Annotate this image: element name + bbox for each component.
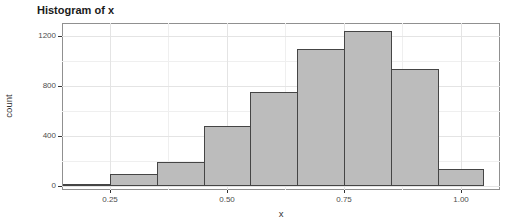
chart-title: Histogram of x xyxy=(37,4,114,16)
x-tick-label: 0.50 xyxy=(212,195,242,205)
x-tick-mark xyxy=(110,190,111,193)
y-tick-label: 0 xyxy=(25,181,56,191)
gridline-x-major xyxy=(110,23,111,190)
y-tick-label: 1200 xyxy=(25,31,56,41)
y-tick-label: 800 xyxy=(25,81,56,91)
x-tick-label: 0.25 xyxy=(95,195,125,205)
x-tick-mark xyxy=(227,190,228,193)
x-tick-mark xyxy=(344,190,345,193)
plot-panel xyxy=(62,23,500,190)
x-tick-label: 0.75 xyxy=(329,195,359,205)
histogram-bar xyxy=(110,174,158,186)
histogram-figure: Histogram of x count x 0.250.500.751.000… xyxy=(0,0,508,224)
histogram-bar xyxy=(250,92,298,186)
x-axis-title: x xyxy=(62,208,500,219)
histogram-bar xyxy=(297,49,345,186)
x-tick-mark xyxy=(461,190,462,193)
histogram-bar xyxy=(63,184,111,186)
y-tick-mark xyxy=(58,186,62,187)
histogram-bar xyxy=(438,169,484,186)
histogram-bar xyxy=(204,126,251,186)
y-tick-label: 400 xyxy=(25,131,56,141)
y-tick-mark xyxy=(58,136,62,137)
histogram-bar xyxy=(391,69,439,186)
x-tick-label: 1.00 xyxy=(446,195,476,205)
gridline-x-major xyxy=(461,23,462,190)
y-tick-mark xyxy=(58,86,62,87)
gridline-y-minor xyxy=(62,61,500,62)
y-tick-mark xyxy=(58,36,62,37)
y-axis-title: count xyxy=(3,94,14,117)
histogram-bar xyxy=(157,162,205,186)
gridline-y-major xyxy=(62,36,500,37)
histogram-bar xyxy=(344,31,392,186)
